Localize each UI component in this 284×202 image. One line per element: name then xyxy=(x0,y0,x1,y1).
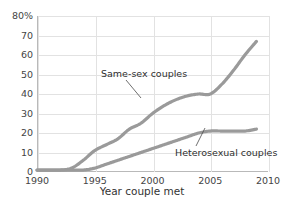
line-chart: 80% 70 60 50 40 30 20 10 0 1990 1995 200… xyxy=(0,0,284,202)
y-tick-label: 80% xyxy=(0,11,33,21)
annotation-same-sex-couples: Same-sex couples xyxy=(101,69,187,79)
y-tick-label: 60 xyxy=(0,50,33,60)
y-tick-label: 50 xyxy=(0,70,33,80)
y-tick-label: 40 xyxy=(0,89,33,99)
y-tick-label: 30 xyxy=(0,109,33,119)
y-tick-label: 70 xyxy=(0,31,33,41)
y-tick-label: 20 xyxy=(0,128,33,138)
annotation-heterosexual-couples: Heterosexual couples xyxy=(175,148,277,158)
y-axis-ticks: 80% 70 60 50 40 30 20 10 0 xyxy=(0,0,284,202)
x-axis-title: Year couple met xyxy=(0,185,284,197)
y-tick-label: 10 xyxy=(0,148,33,158)
